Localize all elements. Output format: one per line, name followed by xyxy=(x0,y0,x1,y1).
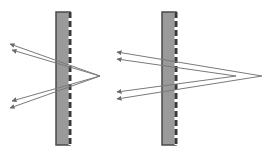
ray-arrow xyxy=(10,44,100,76)
panel-right xyxy=(117,12,262,145)
optics-diagram xyxy=(0,0,270,152)
panel-left xyxy=(10,12,100,145)
slab xyxy=(56,12,70,145)
ray-arrow xyxy=(117,76,262,99)
slab xyxy=(162,12,176,145)
ray-arrow xyxy=(10,76,100,108)
ray-arrow xyxy=(117,52,262,76)
